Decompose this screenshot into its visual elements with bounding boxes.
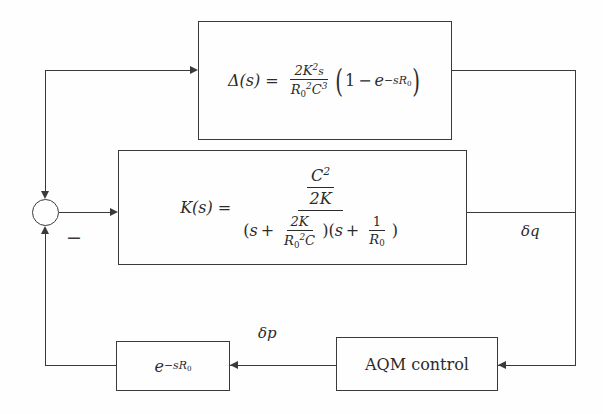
- wire-k-output-right: [467, 212, 576, 213]
- block-diagram-canvas: Δ(s) = 2K2s R02C3 ( 1 − e−sR0 ) K(s) = C…: [0, 0, 603, 414]
- k-den-frac2-den-base: R: [369, 232, 379, 247]
- k-main-denominator: (s+2KR02C)(s+1R0): [239, 211, 402, 250]
- delta-exp-power-text: −sR: [384, 74, 407, 87]
- k-main-numerator: C2 2K: [298, 165, 342, 210]
- k-den-paren-close: ): [392, 221, 398, 240]
- arrow-into-k-block: [110, 208, 118, 216]
- delta-transfer-function-block[interactable]: Δ(s) = 2K2s R02C3 ( 1 − e−sR0 ): [198, 21, 452, 140]
- k-den-frac2-den: R0: [365, 231, 388, 248]
- k-den-frac1-den: R02C: [280, 231, 319, 250]
- delta-paren-open: (: [336, 62, 344, 100]
- delta-exp-base: e: [375, 71, 384, 90]
- delay-power-subscript: 0: [187, 364, 192, 373]
- k-den-s1: s: [249, 221, 257, 240]
- arrow-into-aqm-control: [498, 361, 506, 369]
- arrow-into-summing-junction-bottom: [41, 226, 49, 234]
- delta-gain-fraction: 2K2s R02C3: [287, 62, 332, 99]
- delta-gain-den-base: R: [291, 83, 301, 98]
- k-transfer-function-block[interactable]: K(s) = C2 2K (s+2KR02C)(s+1R0): [118, 150, 467, 265]
- delay-block[interactable]: e−sR0: [116, 341, 230, 391]
- wire-delay-output-left: [45, 365, 116, 366]
- delta-equals: =: [265, 71, 278, 90]
- arrow-into-summing-junction-top: [41, 191, 49, 199]
- wire-trunk-to-aqm: [498, 365, 575, 366]
- k-lhs: K(s): [180, 198, 213, 217]
- wire-aqm-to-delay: [230, 365, 336, 366]
- feedback-signal-label-deltap: δp: [258, 324, 277, 342]
- delta-minus: −: [358, 71, 371, 90]
- delta-exp-power: −sR0: [384, 74, 411, 88]
- k-numerator-inner-fraction: C2 2K: [305, 165, 335, 207]
- k-den-s2: s: [335, 221, 343, 240]
- k-den-plus2: +: [346, 221, 359, 240]
- summing-junction[interactable]: [32, 199, 59, 226]
- delta-gain-den-tail: C: [312, 83, 322, 98]
- delta-lhs: Δ(s): [228, 71, 260, 90]
- k-equals: =: [218, 198, 231, 217]
- delta-gain-num-base: 2K: [294, 63, 312, 78]
- delta-paren-close: ): [413, 62, 421, 100]
- delta-gain-num-tail: s: [318, 65, 324, 78]
- k-den-fraction-2: 1R0: [365, 214, 388, 248]
- wire-right-trunk-vertical: [575, 70, 576, 366]
- k-den-frac1-num: 2K: [287, 214, 313, 231]
- aqm-control-label: AQM control: [365, 355, 469, 374]
- k-den-plus1: +: [261, 221, 274, 240]
- delta-gain-denominator: R02C3: [287, 80, 332, 99]
- output-signal-label-deltaq: δq: [521, 222, 540, 240]
- k-main-fraction: C2 2K (s+2KR02C)(s+1R0): [239, 165, 402, 249]
- delta-exp-power-subscript: 0: [407, 79, 412, 88]
- k-num-inner-top: C2: [307, 165, 334, 187]
- wire-delta-output-right: [452, 70, 576, 71]
- delay-power-text: −sR: [164, 359, 187, 372]
- wire-left-top-vertical: [45, 70, 46, 191]
- arrow-into-delta-block: [190, 66, 198, 74]
- k-den-frac1-den-tail: C: [305, 233, 315, 248]
- delta-one: 1: [345, 71, 355, 90]
- k-num-inner-top-exponent: 2: [323, 165, 330, 178]
- arrow-into-delay-block: [230, 361, 238, 369]
- delta-gain-numerator: 2K2s: [290, 62, 327, 80]
- delta-gain-den-tail-exponent: 3: [322, 81, 328, 91]
- k-den-frac1-den-base: R: [284, 233, 294, 248]
- summing-junction-minus-sign: −: [66, 228, 82, 247]
- delay-base: e: [155, 357, 164, 376]
- wire-delta-input-left: [45, 70, 191, 71]
- k-equation: K(s) = C2 2K (s+2KR02C)(s+1R0): [180, 165, 405, 249]
- delta-equation: Δ(s) = 2K2s R02C3 ( 1 − e−sR0 ): [228, 62, 422, 100]
- k-num-inner-bottom: 2K: [305, 188, 335, 208]
- wire-left-feedback-vertical: [45, 234, 46, 365]
- k-den-paren-mid: )(: [322, 221, 334, 240]
- aqm-control-block[interactable]: AQM control: [336, 337, 498, 391]
- k-num-inner-top-base: C: [311, 167, 323, 186]
- wire-sum-to-k-block: [59, 212, 111, 213]
- delay-power: −sR0: [164, 359, 191, 373]
- delay-equation: e−sR0: [155, 357, 192, 376]
- k-den-frac2-num: 1: [369, 214, 385, 231]
- k-den-fraction-1: 2KR02C: [280, 214, 319, 250]
- k-den-frac2-den-subscript: 0: [379, 239, 385, 249]
